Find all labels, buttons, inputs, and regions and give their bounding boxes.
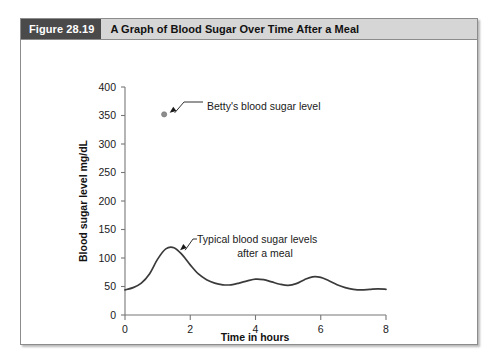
figure-number-label: Figure 28.19: [21, 19, 101, 39]
figure-box: Figure 28.19 A Graph of Blood Sugar Over…: [20, 18, 478, 345]
betty-leader-line: [175, 102, 203, 113]
blood-sugar-line-chart: 050100150200250300350400 02468 Blood sug…: [21, 40, 477, 344]
typical-leader-line: [185, 239, 197, 250]
x-tick-label: 0: [122, 323, 128, 335]
y-axis-ticks: [121, 87, 125, 315]
x-axis-ticks: [125, 315, 386, 320]
y-axis-tick-labels: 050100150200250300350400: [98, 81, 116, 321]
betty-annotation-label: Betty's blood sugar level: [207, 100, 321, 112]
typical-annotation: Typical blood sugar levels after a meal: [180, 233, 317, 259]
bettys-blood-sugar-point: [162, 112, 167, 117]
y-tick-label: 250: [98, 166, 116, 178]
page-canvas: Figure 28.19 A Graph of Blood Sugar Over…: [0, 0, 500, 364]
chart-axes: [125, 87, 386, 315]
y-tick-label: 200: [98, 195, 116, 207]
y-tick-label: 50: [104, 280, 116, 292]
figure-title-label: A Graph of Blood Sugar Over Time After a…: [101, 19, 359, 39]
betty-annotation: Betty's blood sugar level: [170, 100, 321, 113]
y-tick-label: 100: [98, 252, 116, 264]
y-tick-label: 350: [98, 109, 116, 121]
y-tick-label: 0: [110, 309, 116, 321]
typical-annotation-label-line2: after a meal: [237, 247, 292, 259]
x-tick-label: 6: [318, 323, 324, 335]
figure-caption-bar: Figure 28.19 A Graph of Blood Sugar Over…: [21, 19, 477, 40]
x-axis-title: Time in hours: [221, 331, 290, 343]
y-tick-label: 150: [98, 223, 116, 235]
x-tick-label: 2: [187, 323, 193, 335]
typical-annotation-label-line1: Typical blood sugar levels: [197, 233, 317, 245]
y-tick-label: 300: [98, 138, 116, 150]
y-tick-label: 400: [98, 81, 116, 93]
plot-area: 050100150200250300350400 02468 Blood sug…: [21, 40, 477, 344]
y-axis-title: Blood sugar level mg/dL: [77, 139, 89, 262]
x-tick-label: 8: [383, 323, 389, 335]
